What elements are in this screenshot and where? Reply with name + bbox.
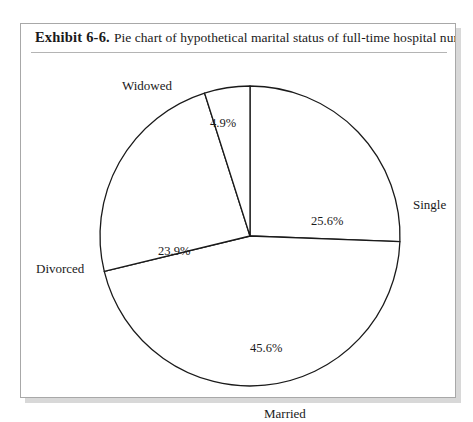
- pie-chart: Single25.6%Married45.6%Divorced23.9%Wido…: [21, 53, 457, 398]
- pie-value-single: 25.6%: [311, 214, 343, 229]
- pie-value-married: 45.6%: [250, 341, 282, 356]
- exhibit-frame: Exhibit 6-6. Pie chart of hypothetical m…: [20, 23, 456, 398]
- pie-chart-svg: [21, 53, 457, 398]
- exhibit-number: Exhibit 6-6.: [35, 29, 110, 45]
- pie-value-widowed: 4.9%: [210, 116, 236, 131]
- exhibit-title: Exhibit 6-6. Pie chart of hypothetical m…: [21, 24, 455, 51]
- pie-label-single: Single: [413, 197, 446, 213]
- pie-value-divorced: 23.9%: [158, 244, 190, 259]
- pie-label-married: Married: [264, 406, 306, 422]
- pie-label-widowed: Widowed: [122, 78, 172, 94]
- exhibit-caption: Pie chart of hypothetical marital status…: [114, 30, 455, 45]
- clipped-text-above: [26, 0, 286, 6]
- pie-label-divorced: Divorced: [36, 261, 84, 277]
